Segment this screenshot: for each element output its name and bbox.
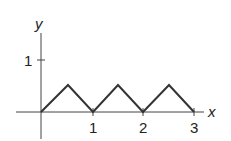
triangle-wave-line [41,85,194,112]
y-axis-label: y [34,15,44,32]
y-tick-label-1: 1 [24,52,32,69]
x-axis-label: x [207,103,216,120]
x-tick-label-2: 2 [139,119,147,136]
x-tick-label-3: 3 [190,119,198,136]
x-tick-label-1: 1 [89,119,97,136]
chart: y x 1 1 2 3 [0,0,231,141]
